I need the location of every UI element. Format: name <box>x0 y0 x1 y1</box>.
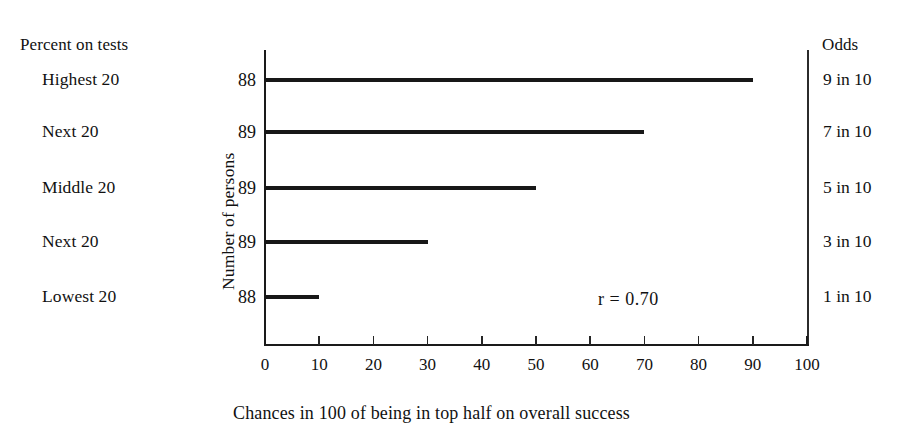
row-count-label-4: 88 <box>226 288 256 306</box>
x-tick-label-20: 20 <box>365 355 382 375</box>
correlation-annotation: r = 0.70 <box>598 290 659 308</box>
row-odds-label-2: 5 in 10 <box>823 179 872 197</box>
row-odds-label-4: 1 in 10 <box>823 288 872 306</box>
right-column-header: Odds <box>822 36 858 53</box>
row-group-label-3: Next 20 <box>42 233 99 251</box>
x-tick-label-60: 60 <box>582 355 599 375</box>
x-axis-right-cap <box>806 336 808 345</box>
x-tick-70 <box>644 336 646 345</box>
y-axis-line <box>264 50 266 345</box>
row-count-label-0: 88 <box>226 71 256 89</box>
bar-2 <box>265 186 536 189</box>
x-tick-60 <box>589 336 591 345</box>
x-tick-label-30: 30 <box>419 355 436 375</box>
bar-4 <box>265 295 319 298</box>
x-axis-left-cap <box>264 336 266 345</box>
row-group-label-0: Highest 20 <box>42 71 119 89</box>
bar-3 <box>265 240 428 243</box>
row-count-label-1: 89 <box>226 123 256 141</box>
x-tick-30 <box>427 336 429 345</box>
x-tick-50 <box>535 336 537 345</box>
bar-1 <box>265 130 644 133</box>
x-tick-label-40: 40 <box>473 355 490 375</box>
row-odds-label-0: 9 in 10 <box>823 71 872 89</box>
x-tick-label-50: 50 <box>528 355 545 375</box>
row-group-label-1: Next 20 <box>42 123 99 141</box>
y-axis-title: Number of persons <box>218 152 239 290</box>
x-axis-caption: Chances in 100 of being in top half on o… <box>233 404 630 422</box>
x-tick-label-100: 100 <box>794 355 820 375</box>
row-group-label-2: Middle 20 <box>42 179 115 197</box>
right-axis-line <box>807 50 809 345</box>
left-column-header: Percent on tests <box>20 36 128 53</box>
x-tick-80 <box>698 336 700 345</box>
row-count-label-2: 89 <box>226 179 256 197</box>
expectancy-chart-figure: Percent on tests Odds Number of persons … <box>0 0 917 437</box>
x-tick-90 <box>752 336 754 345</box>
bar-0 <box>265 78 753 81</box>
x-tick-label-80: 80 <box>690 355 707 375</box>
x-tick-label-90: 90 <box>744 355 761 375</box>
row-odds-label-1: 7 in 10 <box>823 123 872 141</box>
row-group-label-4: Lowest 20 <box>42 288 116 306</box>
row-odds-label-3: 3 in 10 <box>823 233 872 251</box>
x-tick-10 <box>318 336 320 345</box>
x-tick-label-0: 0 <box>261 355 270 375</box>
x-tick-20 <box>373 336 375 345</box>
x-tick-label-70: 70 <box>636 355 653 375</box>
row-count-label-3: 89 <box>226 233 256 251</box>
x-tick-label-10: 10 <box>311 355 328 375</box>
x-tick-40 <box>481 336 483 345</box>
